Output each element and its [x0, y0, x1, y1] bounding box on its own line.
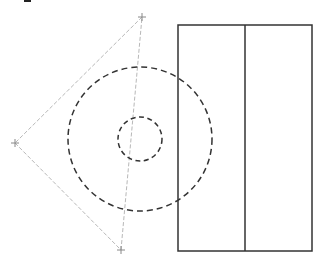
corner-mark: [24, 0, 31, 2]
construction-triangle: [15, 17, 142, 250]
diagram-canvas: [0, 0, 322, 266]
inner-dashed-circle: [118, 117, 162, 161]
outer-dashed-circle: [68, 67, 212, 211]
point-markers: [11, 13, 146, 254]
triangle-edge-top-left: [15, 17, 142, 143]
triangle-edge-bottom-top: [121, 17, 142, 250]
split-rectangle: [178, 25, 312, 251]
triangle-edge-left-bottom: [15, 143, 121, 250]
